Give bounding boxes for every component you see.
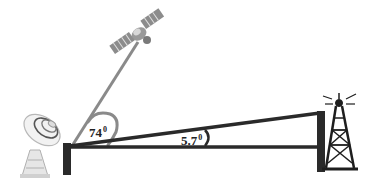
degree-mark: 0 [198,133,202,142]
angle-label-74: 740 [89,126,107,139]
angle-label-5-7: 5.70 [181,134,202,147]
left-post [63,143,71,175]
angle-arc-5-7 [205,130,209,146]
diagram-canvas: 740 5.70 [0,0,373,185]
right-post [317,111,325,172]
satellite-dish-icon [18,108,66,178]
satellite-icon [109,8,164,54]
degree-mark: 0 [103,125,107,134]
angle-value: 5.7 [181,133,197,148]
angle-value: 74 [89,125,102,140]
radio-tower-icon [322,93,358,169]
